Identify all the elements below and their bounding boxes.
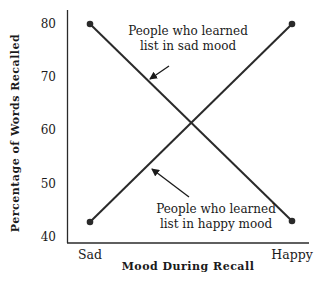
chart-canvas: 80 70 60 50 40 Percentage of Words Recal… [0,0,316,285]
annotation-happy-line1: People who learned [156,202,276,216]
y-tick-70: 70 [41,70,56,84]
arrow-icon [150,66,169,79]
y-tick-40: 40 [41,230,56,244]
data-point [87,219,94,226]
y-tick-50: 50 [41,177,56,191]
annotation-happy-line2: list in happy mood [160,217,273,231]
annotation-happy-mood: People who learned list in happy mood [152,169,276,231]
x-category-happy: Happy [271,247,313,262]
data-point [289,218,296,225]
annotation-sad-mood: People who learned list in sad mood [128,24,248,79]
x-axis-title: Mood During Recall [122,260,255,273]
data-point [289,21,296,28]
y-axis-title: Percentage of Words Recalled [9,34,22,232]
y-tick-80: 80 [41,17,56,31]
x-category-sad: Sad [78,247,102,262]
y-tick-60: 60 [41,123,56,137]
data-point [87,21,94,28]
arrow-icon [152,169,189,197]
annotation-sad-line1: People who learned [128,24,248,38]
annotation-sad-line2: list in sad mood [140,39,236,53]
